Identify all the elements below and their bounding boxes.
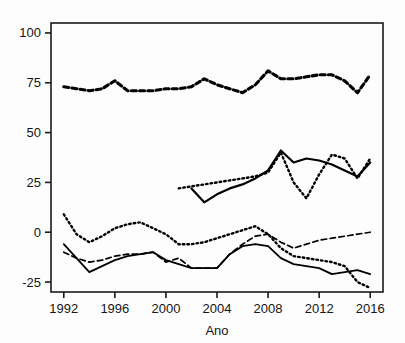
x-tick-label: 2012 [305,301,334,316]
series-layer [64,71,370,288]
x-tick-label: 2008 [254,301,283,316]
x-tick-label: 1992 [49,301,78,316]
y-axis: 1007550250-25 [19,25,51,289]
x-tick-label: 2000 [151,301,180,316]
x-axis-title: Ano [205,323,228,338]
serie-1-heavy-dashed-top [64,71,370,93]
x-tick-label: 2004 [203,301,232,316]
y-tick-label: 50 [27,125,41,140]
y-tick-label: 100 [19,25,41,40]
y-tick-label: 25 [27,175,41,190]
serie-6-solid-lower [64,244,370,274]
x-axis: 1992199620002004200820122016 [49,292,384,316]
x-tick-label: 1996 [100,301,129,316]
x-tick-label: 2016 [356,301,385,316]
plot-frame [51,23,383,292]
serie-4-dotted-lower [64,214,370,288]
y-tick-label: -25 [22,275,41,290]
y-tick-label: 0 [34,225,41,240]
line-chart: 1007550250-25 19921996200020042008201220… [0,0,405,343]
y-tick-label: 75 [27,75,41,90]
chart-page: 1007550250-25 19921996200020042008201220… [0,0,405,343]
